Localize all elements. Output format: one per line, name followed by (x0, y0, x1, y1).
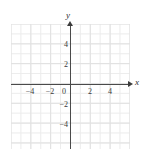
x-tick-label: 2 (88, 88, 92, 96)
y-tick-label: 2 (64, 61, 68, 69)
y-axis-arrow-icon (67, 21, 73, 26)
x-tick-label: 4 (108, 88, 112, 96)
y-tick-label: −2 (59, 101, 68, 109)
x-tick-label: −2 (46, 88, 55, 96)
y-tick-label: −4 (59, 121, 68, 129)
x-axis-label: x (135, 78, 139, 87)
y-axis-label: y (66, 11, 70, 20)
x-axis-arrow-icon (128, 81, 133, 87)
y-axis-line (70, 24, 71, 149)
coordinate-plane-figure: x y 0 −4−224 42−2−4 (0, 0, 147, 160)
x-tick-label: −4 (26, 88, 35, 96)
origin-tick-label: 0 (62, 88, 66, 96)
y-tick-label: 4 (64, 41, 68, 49)
